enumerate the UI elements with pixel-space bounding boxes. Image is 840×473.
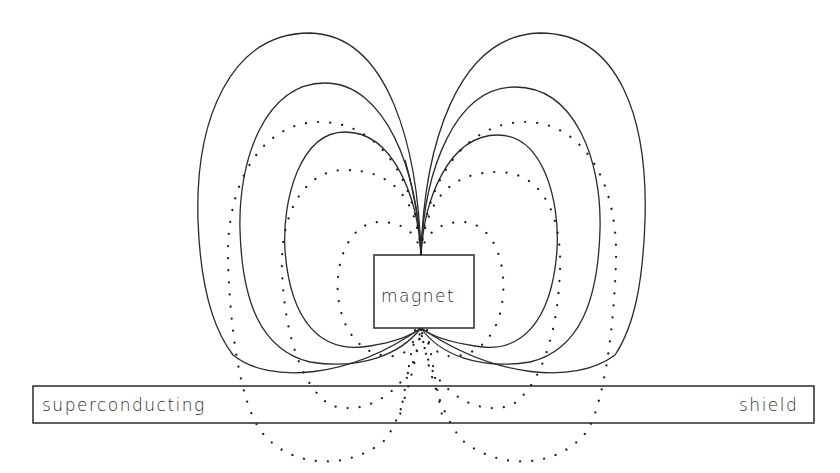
magnet-label: magnet (381, 286, 455, 306)
shield-label-right: shield (739, 395, 798, 415)
field-line-diagram: superconducting shield magnet (0, 0, 840, 473)
magnet: magnet (374, 255, 474, 328)
shield-label-left: superconducting (42, 395, 206, 415)
superconducting-shield: superconducting shield (33, 386, 814, 423)
